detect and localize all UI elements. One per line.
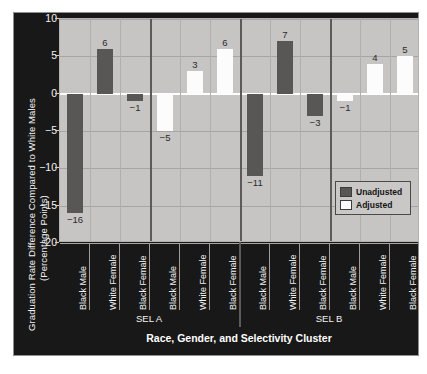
cluster-label: SEL B xyxy=(316,313,343,324)
group-separator xyxy=(330,19,332,241)
x-tick-label: Black Male xyxy=(258,266,268,310)
legend-label-unadjusted: Unadjusted xyxy=(356,187,402,197)
x-tick-label: Black Female xyxy=(408,255,418,310)
x-tick-label: White Female xyxy=(288,254,298,310)
bar-value-label: −3 xyxy=(300,117,330,128)
legend-item-unadjusted: Unadjusted xyxy=(340,185,406,198)
bar xyxy=(397,56,413,93)
bar xyxy=(277,41,293,93)
bar xyxy=(157,94,173,131)
y-axis-title: Graduation Rate Difference Compared to W… xyxy=(14,13,46,343)
legend-label-adjusted: Adjusted xyxy=(356,200,392,210)
zero-line xyxy=(60,93,418,95)
y-tick-label: −5 xyxy=(29,124,57,136)
bar-value-label: −5 xyxy=(150,132,180,143)
x-tick-label: White Female xyxy=(108,254,118,310)
gridline-horizontal xyxy=(60,168,418,169)
bar-value-label: 3 xyxy=(180,59,210,70)
plot-area: −166−1−536−117−3−145 Unadjusted Adjusted xyxy=(59,18,419,242)
gridline-vertical xyxy=(180,19,181,241)
x-label-divider xyxy=(359,244,360,310)
cluster-divider xyxy=(239,242,241,327)
x-tick-label: Black Female xyxy=(318,255,328,310)
bar-value-label: −1 xyxy=(120,102,150,113)
x-label-divider xyxy=(209,244,210,310)
y-tick-label: −20 xyxy=(29,236,57,248)
x-label-divider xyxy=(269,244,270,310)
x-axis-title: Race, Gender, and Selectivity Cluster xyxy=(59,332,419,344)
x-label-divider xyxy=(329,244,330,310)
bar xyxy=(187,71,203,93)
gridline-vertical xyxy=(120,19,121,241)
legend-swatch-adjusted xyxy=(340,200,352,210)
cluster-label: SEL A xyxy=(136,313,162,324)
y-tick-label: 0 xyxy=(29,87,57,99)
y-tick-label: −10 xyxy=(29,161,57,173)
group-separator xyxy=(150,19,152,241)
x-tick-label: Black Male xyxy=(168,266,178,310)
x-label-divider xyxy=(389,244,390,310)
x-label-divider xyxy=(179,244,180,310)
group-separator xyxy=(240,19,242,241)
bar-value-label: −16 xyxy=(60,214,90,225)
gridline-vertical xyxy=(270,19,271,241)
bar xyxy=(67,94,83,213)
y-tick-label: 5 xyxy=(29,49,57,61)
y-tick-label: −15 xyxy=(29,199,57,211)
bar xyxy=(217,49,233,94)
legend-item-adjusted: Adjusted xyxy=(340,198,406,211)
bar xyxy=(97,49,113,94)
x-tick-label: Black Female xyxy=(138,255,148,310)
bar-value-label: 5 xyxy=(390,44,420,55)
x-label-divider xyxy=(149,244,150,310)
gridline-horizontal xyxy=(60,131,418,132)
gridline-horizontal xyxy=(60,19,418,20)
x-tick-label: White Female xyxy=(378,254,388,310)
bar xyxy=(367,64,383,94)
bar xyxy=(247,94,263,176)
bar xyxy=(307,94,323,116)
bar-value-label: −11 xyxy=(240,177,270,188)
bar-value-label: −1 xyxy=(330,102,360,113)
bar-value-label: 4 xyxy=(360,52,390,63)
gridline-vertical xyxy=(210,19,211,241)
x-label-divider xyxy=(299,244,300,310)
chart-figure: Graduation Rate Difference Compared to W… xyxy=(13,12,419,356)
bar-value-label: 7 xyxy=(270,29,300,40)
legend-swatch-unadjusted xyxy=(340,187,352,197)
x-tick-label: White Female xyxy=(198,254,208,310)
y-tick-label: 10 xyxy=(29,12,57,24)
x-tick-label: Black Female xyxy=(228,255,238,310)
bar-value-label: 6 xyxy=(90,37,120,48)
x-label-divider xyxy=(119,244,120,310)
gridline-vertical xyxy=(300,19,301,241)
gridline-vertical xyxy=(90,19,91,241)
x-tick-label: Black Male xyxy=(78,266,88,310)
cluster-labels: SEL ASEL B xyxy=(59,313,419,329)
bar-value-label: 6 xyxy=(210,37,240,48)
chart-legend: Unadjusted Adjusted xyxy=(335,181,411,215)
x-tick-label: Black Male xyxy=(348,266,358,310)
x-label-divider xyxy=(89,244,90,310)
bar xyxy=(337,94,353,101)
bar xyxy=(127,94,143,101)
